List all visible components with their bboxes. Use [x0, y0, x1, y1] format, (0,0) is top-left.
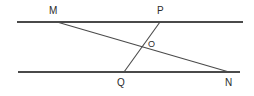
geometry-figure: M P O Q N: [0, 0, 254, 96]
transversal-line-mn: [57, 22, 229, 72]
vertex-label-n: N: [225, 78, 232, 88]
vertex-label-q: Q: [117, 78, 125, 88]
vertex-label-p: P: [157, 6, 164, 16]
vertex-label-o: O: [148, 39, 155, 49]
vertex-label-m: M: [49, 6, 58, 16]
figure-canvas: [0, 0, 254, 96]
